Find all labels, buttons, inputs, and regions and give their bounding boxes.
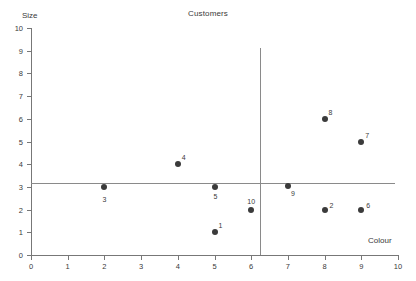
x-tick-label: 2 — [92, 262, 116, 271]
y-tick-mark — [27, 210, 32, 211]
data-point-label: 9 — [291, 190, 295, 197]
x-tick-label: 8 — [313, 262, 337, 271]
x-axis-title: Colour — [368, 236, 392, 245]
y-tick-mark — [27, 51, 32, 52]
data-point-marker[interactable] — [322, 116, 328, 122]
x-tick-label: 9 — [349, 262, 373, 271]
x-tick-label: 6 — [239, 262, 263, 271]
scatter-plot: Customers Size Colour 012345678910 01234… — [0, 0, 416, 281]
y-tick-label: 9 — [1, 47, 23, 56]
y-tick-label: 5 — [1, 138, 23, 147]
data-point-label: 10 — [239, 198, 263, 205]
x-tick-label: 10 — [386, 262, 410, 271]
x-tick-mark — [178, 255, 179, 260]
x-tick-mark — [361, 255, 362, 260]
y-tick-mark — [27, 164, 32, 165]
x-tick-mark — [215, 255, 216, 260]
y-tick-mark — [27, 73, 32, 74]
data-point-marker[interactable] — [175, 161, 181, 167]
x-tick-label: 0 — [19, 262, 43, 271]
y-tick-mark — [27, 187, 32, 188]
y-tick-label: 7 — [1, 92, 23, 101]
vertical-reference-line — [260, 48, 261, 255]
x-tick-mark — [68, 255, 69, 260]
data-point-label: 5 — [214, 193, 218, 200]
data-point-label: 4 — [182, 154, 186, 161]
x-tick-mark — [398, 255, 399, 260]
y-tick-mark — [27, 232, 32, 233]
x-tick-label: 5 — [203, 262, 227, 271]
x-tick-mark — [325, 255, 326, 260]
y-tick-mark — [27, 142, 32, 143]
y-axis-title: Size — [22, 11, 38, 20]
x-tick-label: 7 — [276, 262, 300, 271]
data-point-marker[interactable] — [285, 183, 291, 189]
data-point-marker[interactable] — [101, 184, 107, 190]
y-tick-mark — [27, 119, 32, 120]
data-point-label: 3 — [92, 196, 116, 203]
y-tick-label: 0 — [1, 251, 23, 260]
x-tick-mark — [141, 255, 142, 260]
data-point-label: 8 — [329, 109, 333, 116]
data-point-marker[interactable] — [358, 139, 364, 145]
x-tick-mark — [104, 255, 105, 260]
x-tick-label: 4 — [166, 262, 190, 271]
data-point-label: 7 — [365, 132, 369, 139]
y-tick-label: 6 — [1, 115, 23, 124]
y-tick-label: 10 — [1, 24, 23, 33]
data-point-marker[interactable] — [248, 207, 254, 213]
data-point-marker[interactable] — [322, 207, 328, 213]
data-point-marker[interactable] — [212, 229, 218, 235]
x-tick-mark — [31, 255, 32, 260]
x-tick-label: 1 — [56, 262, 80, 271]
y-tick-label: 8 — [1, 69, 23, 78]
data-point-label: 1 — [219, 222, 223, 229]
x-tick-mark — [251, 255, 252, 260]
y-tick-mark — [27, 28, 32, 29]
x-tick-label: 3 — [129, 262, 153, 271]
data-point-label: 2 — [330, 202, 334, 209]
data-point-label: 6 — [366, 202, 370, 209]
y-tick-label: 3 — [1, 183, 23, 192]
chart-title: Customers — [0, 9, 416, 18]
y-tick-label: 1 — [1, 228, 23, 237]
y-tick-mark — [27, 96, 32, 97]
data-point-marker[interactable] — [212, 184, 218, 190]
y-tick-label: 2 — [1, 206, 23, 215]
y-tick-label: 4 — [1, 160, 23, 169]
data-point-marker[interactable] — [358, 207, 364, 213]
x-tick-mark — [288, 255, 289, 260]
